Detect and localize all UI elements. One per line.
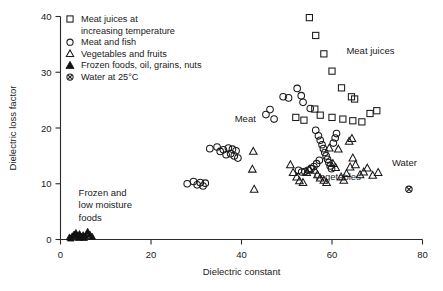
legend-marker-filled-triangle [66, 61, 74, 68]
data-point [345, 137, 353, 144]
data-point [359, 119, 365, 125]
data-point [287, 161, 295, 168]
data-point [367, 110, 373, 116]
legend-label-4: Water at 25°C [81, 72, 139, 82]
plot-annotation-meat: Meat [235, 113, 256, 124]
legend-marker-open-circle [67, 39, 73, 45]
data-point [321, 51, 327, 57]
data-point [317, 112, 323, 118]
x-axis-title: Dielectric constant [203, 266, 281, 277]
data-point [313, 32, 319, 38]
y-axis-title: Dielectric loss factor [7, 86, 18, 171]
data-point [374, 108, 380, 114]
data-point [340, 116, 346, 122]
plot-annotation-foods: foods [79, 212, 102, 223]
data-point [335, 145, 343, 152]
x-tick-label: 80 [417, 249, 428, 260]
y-tick-label: 20 [41, 123, 52, 134]
plot-annotation-meat-juices: Meat juices [346, 45, 394, 56]
data-point [271, 116, 278, 123]
data-point [301, 117, 307, 123]
data-point [293, 114, 299, 120]
x-tick-label: 20 [146, 249, 157, 260]
data-point [369, 171, 377, 178]
data-point [307, 105, 314, 112]
data-point [249, 147, 257, 154]
data-point [250, 185, 258, 192]
data-point [329, 68, 335, 74]
y-tick-label: 10 [41, 178, 52, 189]
dielectric-scatter-plot: 020406080010203040Dielectric constantDie… [0, 0, 443, 291]
x-tick-label: 0 [58, 249, 63, 260]
data-point [374, 169, 382, 176]
data-point [338, 85, 344, 91]
plot-annotation-frozen-and: Frozen and [79, 187, 127, 198]
y-tick-label: 40 [41, 11, 52, 22]
legend-label-1: Meat and fish [81, 37, 136, 47]
data-point [329, 114, 335, 120]
legend-label-3: Frozen foods, oil, grains, nuts [81, 60, 202, 70]
legend-label-0: Meat juices at [81, 14, 138, 24]
data-point [267, 106, 274, 113]
data-point [223, 151, 230, 158]
data-point [207, 145, 214, 152]
data-point [184, 180, 191, 187]
legend-label-2: Vegetables and fruits [81, 49, 167, 59]
legend-marker-open-triangle [66, 50, 73, 57]
plot-annotation-water: Water [392, 157, 417, 168]
data-point [214, 144, 221, 151]
data-point [300, 99, 307, 106]
x-tick-label: 40 [236, 249, 247, 260]
plot-annotation-vegetables: Vegetables [314, 171, 361, 182]
data-point [352, 161, 360, 168]
y-tick-label: 0 [46, 234, 51, 245]
plot-annotation-low-moisture: low moisture [79, 199, 132, 210]
x-tick-label: 60 [327, 249, 338, 260]
chart-container: 020406080010203040Dielectric constantDie… [0, 0, 443, 291]
data-point [306, 15, 312, 21]
y-tick-label: 30 [41, 67, 52, 78]
data-point [363, 164, 371, 171]
data-point [249, 165, 257, 172]
legend-label-0-cont: increasing temperature [81, 26, 175, 36]
data-point [333, 130, 340, 137]
data-point [350, 118, 356, 124]
legend-marker-open-square [67, 16, 73, 22]
data-point [294, 85, 301, 92]
data-point [298, 92, 305, 99]
